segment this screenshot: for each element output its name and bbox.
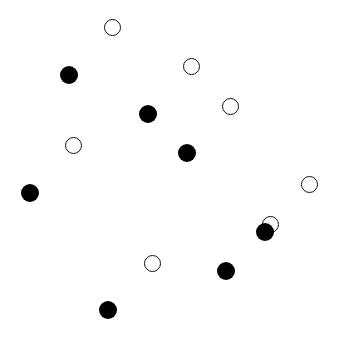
front-grid-cell bbox=[9, 133, 50, 174]
front-grid-cell bbox=[127, 133, 168, 174]
front-grid-cell bbox=[245, 172, 286, 213]
front-grid-cell bbox=[127, 172, 168, 213]
front-grid-cell bbox=[48, 93, 89, 134]
front-grid-cell bbox=[245, 251, 286, 292]
back-grid-cell bbox=[289, 243, 329, 283]
front-grid-cell bbox=[166, 211, 207, 252]
front-grid-cell bbox=[245, 93, 286, 134]
front-grid-cell bbox=[166, 172, 207, 213]
front-grid-cell bbox=[88, 133, 129, 174]
filled-circle-icon bbox=[21, 184, 39, 202]
front-grid-cell bbox=[88, 172, 129, 213]
back-grid-cell bbox=[171, 7, 211, 47]
front-grid-cell bbox=[9, 54, 50, 95]
front-grid-cell bbox=[9, 93, 50, 134]
front-grid-cell bbox=[88, 211, 129, 252]
front-grid-cell bbox=[127, 211, 168, 252]
back-grid-cell bbox=[289, 7, 329, 47]
front-grid-cell bbox=[245, 133, 286, 174]
front-grid-cell bbox=[166, 290, 207, 331]
filled-circle-icon bbox=[178, 144, 196, 162]
back-grid-cell bbox=[289, 46, 329, 86]
front-grid-cell bbox=[48, 211, 89, 252]
front-grid-cell bbox=[88, 54, 129, 95]
front-grid-cell bbox=[88, 251, 129, 292]
front-grid-cell bbox=[48, 172, 89, 213]
front-grid-cell bbox=[9, 251, 50, 292]
back-grid-cell bbox=[53, 7, 93, 47]
front-grid-cell bbox=[206, 290, 247, 331]
filled-circle-icon bbox=[60, 66, 78, 84]
filled-circle-icon bbox=[139, 105, 157, 123]
front-grid-cell bbox=[88, 93, 129, 134]
front-grid-cell bbox=[245, 290, 286, 331]
front-grid-cell bbox=[9, 211, 50, 252]
front-grid-cell bbox=[48, 290, 89, 331]
open-circle-icon bbox=[144, 255, 161, 272]
back-grid-cell bbox=[289, 125, 329, 165]
front-grid-cell bbox=[48, 251, 89, 292]
front-grid-cell bbox=[245, 54, 286, 95]
back-grid-cell bbox=[289, 86, 329, 126]
front-grid-cell bbox=[206, 54, 247, 95]
back-grid-cell bbox=[132, 7, 172, 47]
front-grid-cell bbox=[9, 290, 50, 331]
front-grid-cell bbox=[166, 93, 207, 134]
front-grid-cell bbox=[127, 54, 168, 95]
back-grid-cell bbox=[250, 7, 290, 47]
front-grid-cell bbox=[206, 133, 247, 174]
front-grid-cell bbox=[127, 290, 168, 331]
front-grid-cell bbox=[206, 172, 247, 213]
front-grid-cell bbox=[166, 251, 207, 292]
back-grid-cell bbox=[289, 204, 329, 244]
open-circle-icon bbox=[222, 98, 239, 115]
back-grid-cell bbox=[210, 7, 250, 47]
front-grid-cell bbox=[206, 211, 247, 252]
